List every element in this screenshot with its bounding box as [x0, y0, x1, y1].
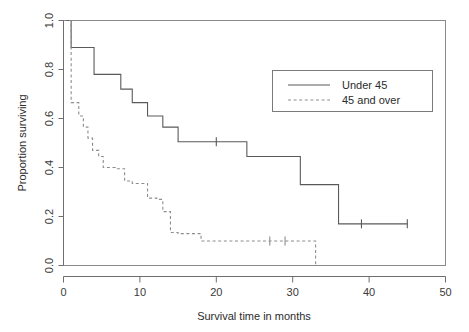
x-tick-label: 0	[60, 286, 66, 298]
kaplan-meier-plot: 0.00.20.40.60.81.0 01020304050 Proportio…	[0, 0, 469, 332]
x-tick-label: 40	[363, 286, 375, 298]
survival-chart-figure: 0.00.20.40.60.81.0 01020304050 Proportio…	[0, 0, 469, 332]
x-tick-label: 10	[134, 286, 146, 298]
x-axis-title: Survival time in months	[197, 310, 311, 322]
legend-label: Under 45	[342, 79, 387, 91]
y-axis-title: Proportion surviving	[16, 94, 28, 191]
y-tick-label: 1.0	[43, 13, 55, 28]
x-tick-label: 20	[210, 286, 222, 298]
x-tick-label: 50	[439, 286, 451, 298]
plot-background	[0, 0, 469, 332]
y-tick-label: 0.6	[43, 111, 55, 126]
y-tick-label: 0.4	[43, 160, 55, 175]
y-tick-label: 0.8	[43, 62, 55, 77]
y-tick-label: 0.2	[43, 209, 55, 224]
legend-label: 45 and over	[342, 94, 400, 106]
y-tick-label: 0.0	[43, 258, 55, 273]
chart-legend: Under 4545 and over	[273, 71, 433, 112]
x-tick-label: 30	[287, 286, 299, 298]
